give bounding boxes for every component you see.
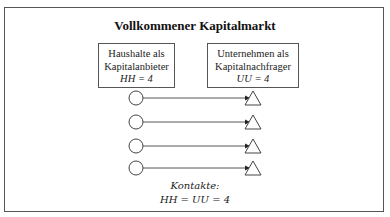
contacts-label: Kontakte: — [0, 179, 390, 193]
household-circle-icon — [129, 161, 143, 175]
connection-row-3 — [129, 139, 261, 153]
household-circle-icon — [129, 91, 143, 105]
connection-row-4 — [129, 161, 261, 175]
household-circle-icon — [129, 139, 143, 153]
connection-row-2 — [129, 115, 261, 129]
contacts-summary: Kontakte: HH = UU = 4 — [0, 179, 390, 207]
household-circle-icon — [129, 115, 143, 129]
connection-row-1 — [129, 91, 261, 105]
contacts-formula: HH = UU = 4 — [0, 193, 390, 207]
